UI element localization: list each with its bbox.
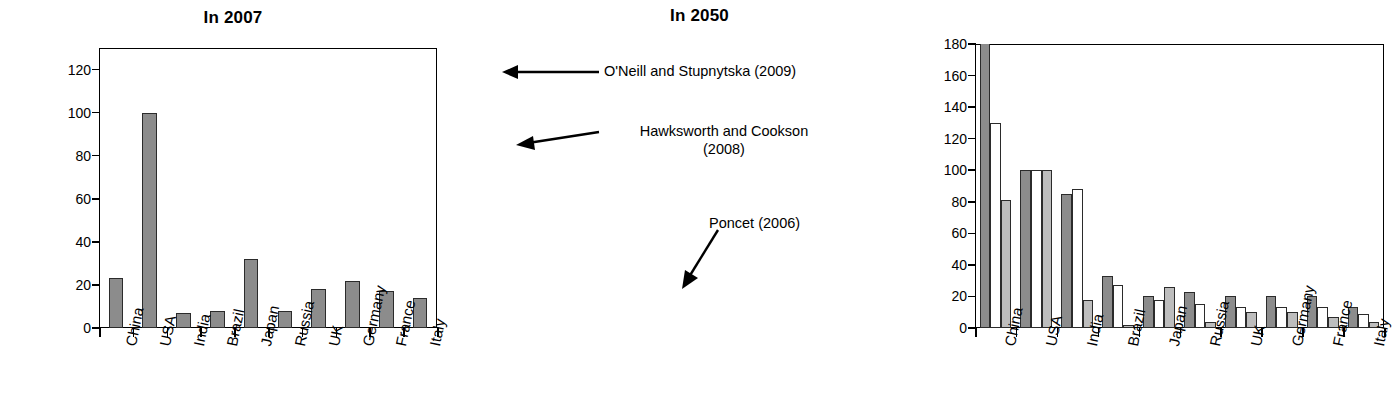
bar-usa-s3 <box>1042 170 1053 328</box>
y-tick-label: 160 <box>927 68 967 84</box>
y-tick-label: 180 <box>927 36 967 52</box>
bar-uk-s2 <box>1236 307 1247 328</box>
y-tick-mark <box>968 43 976 45</box>
bar-russia-s2 <box>1195 304 1206 328</box>
x-tick-mark <box>975 328 977 337</box>
y-tick-label: 140 <box>927 99 967 115</box>
bar-italy-s2 <box>1358 314 1369 328</box>
chart-panel-2050: In 2050 180160140120100806040200 ChinaUS… <box>466 0 933 413</box>
y-tick-label: 40 <box>927 257 967 273</box>
y-tick-mark <box>968 201 976 203</box>
bar-china-s1 <box>109 278 124 328</box>
bar-series-2007 <box>0 0 466 413</box>
y-tick-label: 60 <box>927 225 967 241</box>
annotation-arrow-poncet <box>466 0 933 413</box>
bar-usa-s1 <box>1020 170 1031 328</box>
bar-india-s1 <box>1061 194 1072 328</box>
y-tick-mark <box>968 138 976 140</box>
bar-brazil-s2 <box>1113 285 1124 328</box>
bar-germany-s1 <box>345 281 360 328</box>
chart-panel-2007: In 2007 120100806040200 ChinaUSAIndiaBra… <box>0 0 466 413</box>
x-axis-label-uk: UK <box>1247 324 1268 348</box>
bar-china-s2 <box>990 123 1001 328</box>
y-tick-label: 120 <box>927 131 967 147</box>
bar-usa-s2 <box>1031 170 1042 328</box>
y-tick-label: 100 <box>927 162 967 178</box>
y-tick-mark <box>968 106 976 108</box>
y-tick-mark <box>968 264 976 266</box>
bar-china-s1 <box>980 44 991 328</box>
y-tick-mark <box>968 296 976 298</box>
bar-india-s2 <box>1072 189 1083 328</box>
bar-germany-s2 <box>1276 307 1287 328</box>
y-tick-mark <box>968 233 976 235</box>
bar-germany-s1 <box>1266 296 1277 328</box>
bar-usa-s1 <box>142 113 157 328</box>
bar-france-s2 <box>1317 307 1328 328</box>
y-tick-label: 80 <box>927 194 967 210</box>
y-tick-label: 0 <box>927 320 967 336</box>
bar-japan-s2 <box>1154 300 1165 328</box>
y-tick-mark <box>968 75 976 77</box>
y-tick-mark <box>968 169 976 171</box>
y-tick-label: 20 <box>927 288 967 304</box>
